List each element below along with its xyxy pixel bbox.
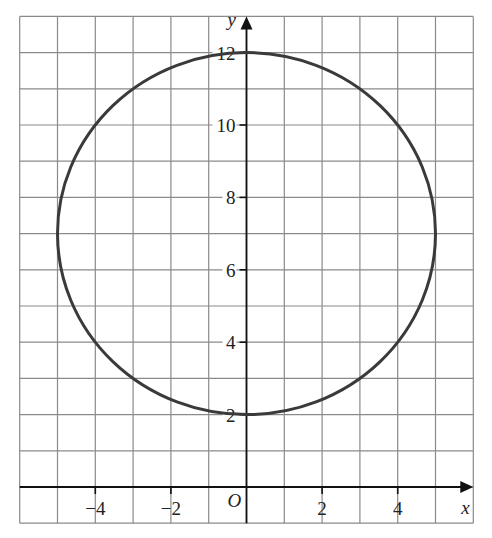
x-tick-label: −2 <box>161 498 181 519</box>
y-tick-label: 4 <box>226 332 236 353</box>
origin-label: O <box>228 490 242 511</box>
x-tick-label: 2 <box>317 498 327 519</box>
x-tick-label: 4 <box>393 498 403 519</box>
x-axis-arrow-icon <box>460 481 473 493</box>
y-axis-label: y <box>226 9 237 30</box>
x-axis-label: x <box>460 497 470 518</box>
y-tick-label: 8 <box>226 187 236 208</box>
y-tick-label: 10 <box>217 115 236 136</box>
y-axis-arrow-icon <box>241 16 253 29</box>
y-tick-label: 6 <box>226 260 236 281</box>
chart: −4−22424681012 x y O <box>0 0 492 538</box>
x-tick-label: −4 <box>85 498 106 519</box>
